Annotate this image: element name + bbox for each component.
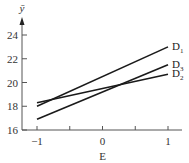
series-line-d2 [37,74,168,103]
y-axis-title: ȳ [19,2,26,14]
series-lines [37,47,168,119]
axes: 1618202224−101Eȳ [7,2,182,162]
x-axis-title: E [99,150,106,162]
x-tick-label: 0 [100,135,106,147]
interaction-plot: 1618202224−101Eȳ D1D3D2 [0,0,189,163]
x-tick-label: 1 [165,135,171,147]
series-label-d1: D1 [172,40,184,55]
y-axis-arrow-icon [20,17,25,25]
series-line-d1 [37,47,168,106]
y-tick-label: 22 [7,53,18,65]
y-tick-label: 24 [7,29,19,41]
series-labels: D1D3D2 [172,40,184,82]
x-tick-label: −1 [31,135,43,147]
y-tick-label: 16 [7,124,19,136]
y-tick-label: 18 [7,100,19,112]
series-line-d3 [37,65,168,120]
y-tick-label: 20 [7,77,19,89]
